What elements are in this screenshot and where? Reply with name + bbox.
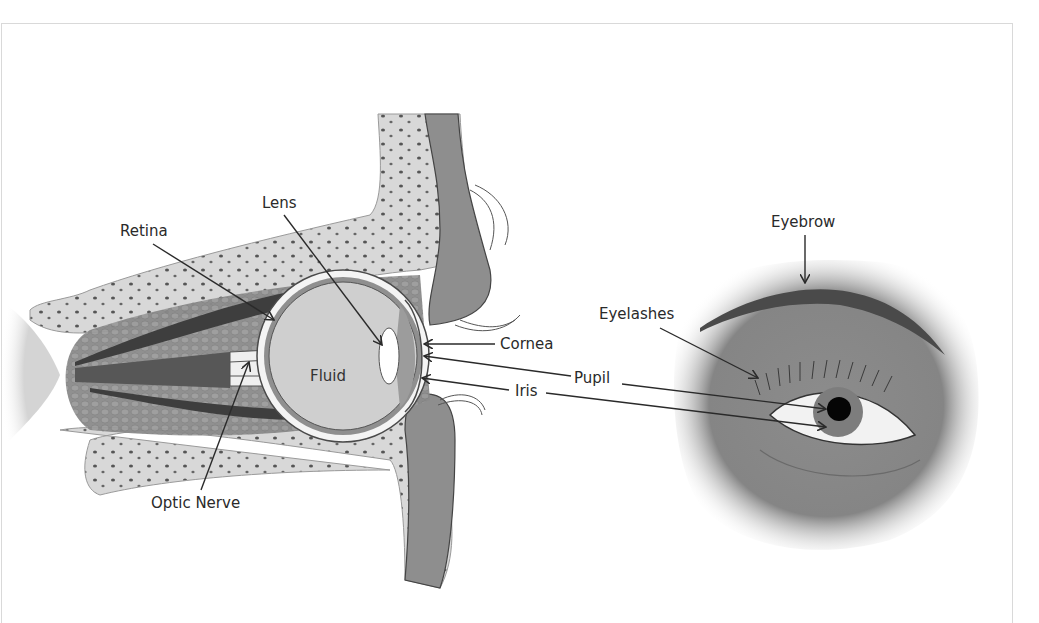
label-retina: Retina	[120, 222, 168, 240]
label-fluid: Fluid	[310, 367, 346, 385]
label-cornea: Cornea	[500, 335, 553, 353]
lens	[379, 328, 399, 384]
pupil-leader	[424, 356, 571, 376]
label-eyelashes: Eyelashes	[599, 305, 674, 323]
label-iris: Iris	[515, 382, 538, 400]
label-optic-nerve: Optic Nerve	[151, 494, 240, 512]
label-eyebrow: Eyebrow	[771, 213, 835, 231]
lower-skin	[405, 394, 455, 588]
pupil	[827, 397, 851, 421]
label-pupil: Pupil	[574, 369, 610, 387]
iris-leader-left	[422, 378, 509, 390]
cross-section-illustration	[0, 114, 520, 588]
external-eye-illustration	[674, 260, 979, 550]
label-lens: Lens	[262, 194, 297, 212]
